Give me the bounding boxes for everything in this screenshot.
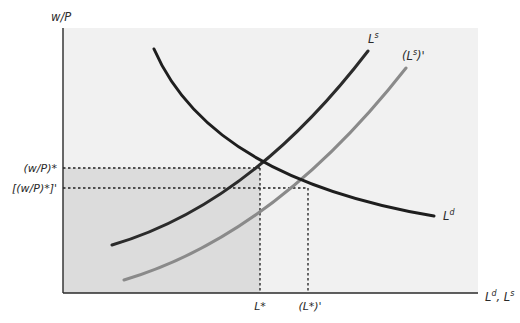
x-tick-employment-eq-new: (L*)' bbox=[298, 300, 321, 313]
y-axis-label: w/P bbox=[51, 10, 71, 24]
x-tick-employment-eq: L* bbox=[254, 300, 266, 313]
labor-market-diagram: w/P Ld, Ls Ls (Ls)' Ld (w/P)* [(w/P)*]' … bbox=[0, 0, 520, 323]
x-axis-label: Ld, Ls bbox=[485, 289, 514, 304]
y-tick-real-wage-eq: (w/P)* bbox=[24, 162, 58, 175]
y-tick-real-wage-eq-new: [(w/P)*]' bbox=[12, 182, 57, 195]
